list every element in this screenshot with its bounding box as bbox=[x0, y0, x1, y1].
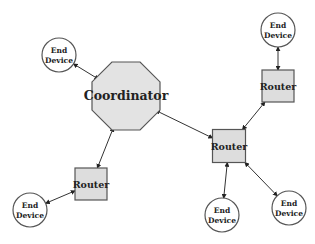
edge-coordinator-to-router-center bbox=[156, 110, 213, 138]
edge-router-center-to-end-device-bottom-center bbox=[224, 163, 228, 199]
end-device-label-line: End bbox=[281, 199, 298, 208]
end-device-label-line: End bbox=[22, 201, 39, 210]
end-device-label-line: End bbox=[270, 21, 287, 30]
end-device-label-line: Device bbox=[208, 216, 236, 225]
end-device-label-line: Device bbox=[16, 211, 44, 220]
router-label: Router bbox=[211, 141, 249, 152]
router-center-node: Router bbox=[211, 130, 249, 163]
end-device-label-line: End bbox=[214, 206, 231, 215]
end-device-top-right-node: EndDevice bbox=[261, 13, 295, 47]
end-device-bottom-right-node: EndDevice bbox=[272, 191, 306, 225]
end-device-bottom-left-node: EndDevice bbox=[13, 193, 47, 227]
end-device-label-line: Device bbox=[45, 56, 73, 65]
edge-router-center-to-end-device-bottom-right bbox=[245, 163, 277, 196]
edge-router-left-to-end-device-bottom-left bbox=[46, 191, 75, 204]
router-label: Router bbox=[260, 81, 298, 92]
coordinator-node: Coordinator bbox=[84, 62, 169, 130]
router-left-node: Router bbox=[73, 168, 111, 200]
end-device-label-line: Device bbox=[275, 209, 303, 218]
edge-end-device-top-left-to-coordinator bbox=[74, 64, 99, 79]
router-label: Router bbox=[73, 179, 111, 190]
end-device-bottom-center-node: EndDevice bbox=[205, 198, 239, 232]
nodes-layer: CoordinatorRouterRouterRouterEndDeviceEn… bbox=[13, 13, 306, 232]
router-top-right-node: Router bbox=[260, 70, 298, 102]
network-topology-diagram: CoordinatorRouterRouterRouterEndDeviceEn… bbox=[0, 0, 315, 244]
edge-coordinator-to-router-left bbox=[97, 128, 113, 168]
end-device-label-line: Device bbox=[264, 31, 292, 40]
edge-router-center-to-router-top-right bbox=[242, 102, 264, 130]
coordinator-label: Coordinator bbox=[84, 88, 169, 103]
end-device-label-line: End bbox=[51, 46, 68, 55]
end-device-top-left-node: EndDevice bbox=[42, 38, 76, 72]
